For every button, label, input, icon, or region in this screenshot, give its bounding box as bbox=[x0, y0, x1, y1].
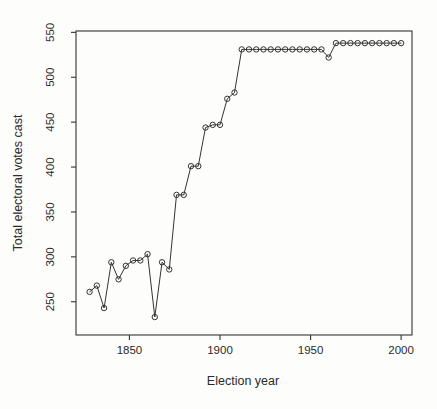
x-axis-label: Election year bbox=[207, 374, 279, 388]
y-tick-label: 500 bbox=[44, 68, 56, 87]
x-tick-label: 1850 bbox=[117, 344, 143, 356]
y-axis-label: Total electoral votes cast bbox=[11, 114, 25, 251]
series-line bbox=[90, 43, 402, 317]
y-tick-label: 350 bbox=[44, 202, 56, 221]
x-tick-label: 1900 bbox=[207, 344, 233, 356]
x-tick-label: 1950 bbox=[298, 344, 324, 356]
y-tick-label: 450 bbox=[44, 113, 56, 132]
x-tick-label: 2000 bbox=[388, 344, 414, 356]
y-tick-label: 250 bbox=[44, 292, 56, 311]
y-tick-label: 550 bbox=[44, 23, 56, 42]
y-tick-label: 300 bbox=[44, 247, 56, 266]
electoral-votes-line-chart: 1850190019502000250300350400450500550 El… bbox=[0, 0, 437, 409]
plot-box bbox=[76, 31, 412, 335]
y-tick-label: 400 bbox=[44, 157, 56, 176]
plot-area: 1850190019502000250300350400450500550 bbox=[44, 23, 414, 356]
figure: 1850190019502000250300350400450500550 El… bbox=[0, 0, 437, 409]
